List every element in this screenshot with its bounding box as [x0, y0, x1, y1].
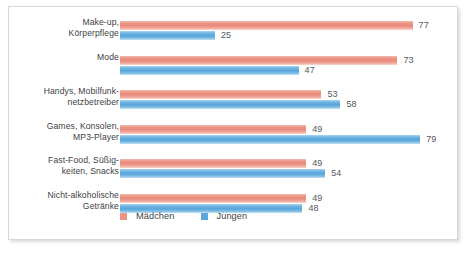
- bar-value-girls: 49: [312, 194, 322, 203]
- bar-group: 7347: [120, 56, 453, 78]
- bar-value-boys: 48: [308, 204, 318, 213]
- chart-row: Make-up, Körperpflege7725: [9, 21, 457, 43]
- bar-group: 7725: [120, 21, 453, 43]
- bar-value-girls: 53: [327, 90, 337, 99]
- bar-value-girls: 49: [312, 159, 322, 168]
- bar-girls[interactable]: [120, 56, 397, 65]
- category-label: Fast-Food, Süßig- keiten, Snacks: [0, 155, 119, 177]
- bar-group: 4979: [120, 125, 453, 147]
- bar-girls[interactable]: [120, 159, 306, 168]
- bar-value-girls: 49: [312, 125, 322, 134]
- bar-boys[interactable]: [120, 31, 215, 40]
- category-label: Mode: [0, 52, 119, 63]
- chart-row: Handys, Mobilfunk- netzbetreiber5358: [9, 90, 457, 112]
- legend-item-boys[interactable]: Jungen: [201, 211, 248, 221]
- bar-group: 5358: [120, 90, 453, 112]
- legend-label-boys: Jungen: [217, 211, 248, 221]
- bar-value-girls: 77: [419, 21, 429, 30]
- bar-girls[interactable]: [120, 194, 306, 203]
- chart-screenshot: Make-up, Körperpflege7725Mode7347Handys,…: [0, 0, 473, 257]
- bar-value-boys: 25: [221, 31, 231, 40]
- bar-girls[interactable]: [120, 21, 413, 30]
- chart-frame: Make-up, Körperpflege7725Mode7347Handys,…: [8, 6, 458, 240]
- legend-label-girls: Mädchen: [136, 211, 175, 221]
- chart-row: Fast-Food, Süßig- keiten, Snacks4954: [9, 159, 457, 181]
- legend-item-girls[interactable]: Mädchen: [120, 211, 175, 221]
- bar-value-boys: 79: [426, 135, 436, 144]
- category-label: Handys, Mobilfunk- netzbetreiber: [0, 86, 119, 108]
- bar-group: 4954: [120, 159, 453, 181]
- bar-value-girls: 73: [403, 56, 413, 65]
- chart-legend: Mädchen Jungen: [120, 211, 273, 221]
- bar-boys[interactable]: [120, 169, 325, 178]
- chart-plot-area: Make-up, Körperpflege7725Mode7347Handys,…: [9, 7, 457, 239]
- category-label: Make-up, Körperpflege: [0, 17, 119, 39]
- chart-row: Games, Konsolen, MP3-Player4979: [9, 125, 457, 147]
- bar-boys[interactable]: [120, 135, 420, 144]
- bar-value-boys: 54: [331, 169, 341, 178]
- bar-boys[interactable]: [120, 100, 340, 109]
- bar-boys[interactable]: [120, 66, 299, 75]
- legend-swatch-icon-boys: [201, 213, 208, 220]
- bar-girls[interactable]: [120, 125, 306, 134]
- bar-value-boys: 47: [305, 66, 315, 75]
- category-label: Nicht-alkoholische Getränke: [0, 190, 119, 212]
- bar-girls[interactable]: [120, 90, 321, 99]
- bar-value-boys: 58: [346, 100, 356, 109]
- chart-row: Mode7347: [9, 56, 457, 78]
- category-label: Games, Konsolen, MP3-Player: [0, 121, 119, 143]
- legend-swatch-icon-girls: [120, 213, 127, 220]
